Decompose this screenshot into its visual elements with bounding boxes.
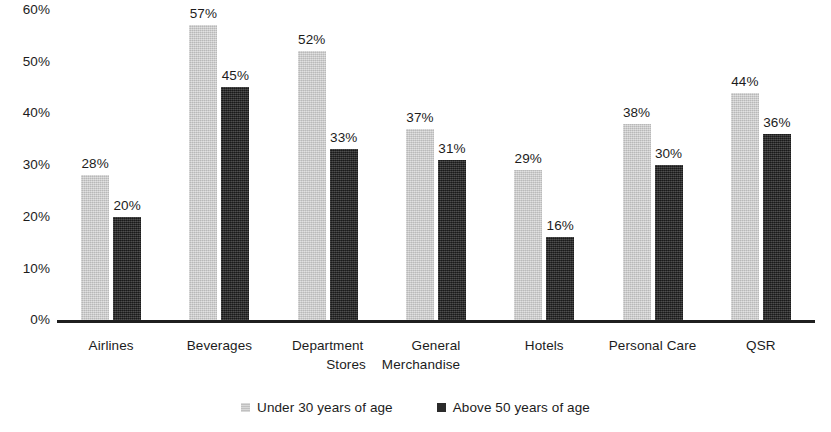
bar[interactable]	[623, 124, 651, 320]
bar[interactable]	[514, 170, 542, 320]
legend-swatch-icon-above-50	[437, 403, 446, 412]
x-axis-label: Hotels	[490, 336, 598, 386]
bar-group: 52%33%	[274, 0, 382, 322]
x-axis-label-line: General	[382, 336, 490, 355]
bar-column: 57%	[189, 0, 217, 320]
bar[interactable]	[438, 160, 466, 320]
bar-column: 29%	[514, 0, 542, 320]
bar-value-label: 31%	[438, 142, 465, 156]
y-axis: 60% 50% 40% 30% 20% 10% 0%	[0, 0, 50, 330]
bar-value-label: 20%	[113, 199, 140, 213]
bar-group: 44%36%	[707, 0, 815, 322]
x-axis-label-line: Hotels	[490, 336, 598, 355]
bar-column: 33%	[330, 0, 358, 320]
legend-label-above-50: Above 50 years of age	[453, 400, 590, 415]
bar-pair: 44%36%	[707, 0, 815, 320]
bar-value-label: 52%	[298, 33, 325, 47]
bar-pair: 29%16%	[490, 0, 598, 320]
bar-column: 38%	[623, 0, 651, 320]
bar-column: 28%	[81, 0, 109, 320]
legend-label-under-30: Under 30 years of age	[257, 400, 393, 415]
bar-group: 37%31%	[382, 0, 490, 322]
bar-group: 57%45%	[165, 0, 273, 322]
x-axis-label-line: Beverages	[165, 336, 273, 355]
bar[interactable]	[330, 149, 358, 320]
x-axis-label: Airlines	[57, 336, 165, 386]
x-axis-label-line: Stores	[274, 355, 382, 374]
y-axis-tick-40: 40%	[0, 106, 50, 120]
bar-value-label: 36%	[763, 116, 790, 130]
bar-column: 37%	[406, 0, 434, 320]
bar-value-label: 30%	[655, 147, 682, 161]
bar-value-label: 38%	[623, 106, 650, 120]
bar-value-label: 16%	[547, 219, 574, 233]
x-axis-label-line: Airlines	[57, 336, 165, 355]
bar-column: 30%	[655, 0, 683, 320]
bar-pair: 57%45%	[165, 0, 273, 320]
x-axis-category-labels: AirlinesBeveragesDepartmentStoresGeneral…	[57, 336, 815, 386]
x-axis-label: Personal Care	[598, 336, 706, 386]
x-axis-label: GeneralMerchandise	[382, 336, 490, 386]
bar-pair: 37%31%	[382, 0, 490, 320]
bar[interactable]	[731, 93, 759, 320]
bar-column: 20%	[113, 0, 141, 320]
bar-group: 29%16%	[490, 0, 598, 322]
y-axis-tick-50: 50%	[0, 55, 50, 69]
bar-value-label: 45%	[222, 69, 249, 83]
bar[interactable]	[189, 25, 217, 320]
bar-column: 44%	[731, 0, 759, 320]
y-axis-tick-20: 20%	[0, 210, 50, 224]
bar-value-label: 33%	[330, 131, 357, 145]
bar-group: 28%20%	[57, 0, 165, 322]
bar-column: 16%	[546, 0, 574, 320]
bar-groups: 28%20%57%45%52%33%37%31%29%16%38%30%44%3…	[57, 0, 815, 322]
y-axis-tick-60: 60%	[0, 3, 50, 17]
bar[interactable]	[546, 237, 574, 320]
x-axis-label: DepartmentStores	[274, 336, 382, 386]
bar[interactable]	[221, 87, 249, 320]
x-axis-label-line: QSR	[707, 336, 815, 355]
bar[interactable]	[655, 165, 683, 320]
bar-pair: 52%33%	[274, 0, 382, 320]
bar-value-label: 37%	[406, 111, 433, 125]
x-axis-label: QSR	[707, 336, 815, 386]
bar-column: 45%	[221, 0, 249, 320]
bar[interactable]	[81, 175, 109, 320]
chart-legend: Under 30 years of age Above 50 years of …	[0, 400, 831, 415]
bar-value-label: 29%	[515, 152, 542, 166]
y-axis-tick-10: 10%	[0, 262, 50, 276]
x-axis-label-line: Personal Care	[598, 336, 706, 355]
bar-column: 36%	[763, 0, 791, 320]
bar-column: 31%	[438, 0, 466, 320]
bar-column: 52%	[298, 0, 326, 320]
bar-value-label: 44%	[731, 75, 758, 89]
bar[interactable]	[298, 51, 326, 320]
y-axis-tick-0: 0%	[0, 313, 50, 327]
bar[interactable]	[763, 134, 791, 320]
legend-swatch-icon-under-30	[241, 403, 250, 412]
bar-chart: 60% 50% 40% 30% 20% 10% 0% 28%20%57%45%5…	[0, 0, 831, 432]
x-axis-line	[57, 320, 815, 323]
bar[interactable]	[406, 129, 434, 320]
x-axis-label: Beverages	[165, 336, 273, 386]
bar-value-label: 28%	[81, 157, 108, 171]
x-axis-label-line: Merchandise	[382, 355, 490, 374]
y-axis-tick-30: 30%	[0, 158, 50, 172]
x-axis-label-line: Department	[274, 336, 382, 355]
bar[interactable]	[113, 217, 141, 320]
legend-item-above-50[interactable]: Above 50 years of age	[437, 400, 590, 415]
bar-value-label: 57%	[190, 7, 217, 21]
bar-pair: 38%30%	[598, 0, 706, 320]
bar-group: 38%30%	[598, 0, 706, 322]
bar-pair: 28%20%	[57, 0, 165, 320]
legend-item-under-30[interactable]: Under 30 years of age	[241, 400, 393, 415]
